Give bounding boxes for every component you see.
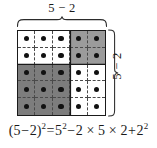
dot (94, 53, 99, 58)
dot (58, 104, 63, 109)
dot (24, 53, 29, 58)
dot (76, 36, 81, 41)
dot (76, 87, 81, 92)
formula-equals: = (46, 123, 55, 138)
formula-lhs-minus: − (21, 123, 30, 138)
dot (58, 36, 63, 41)
dot (94, 36, 99, 41)
dot (41, 53, 46, 58)
grid-cell (88, 98, 105, 115)
formula-plus: + (128, 123, 137, 138)
formula-lhs-two: 2) (30, 123, 42, 138)
dot (76, 104, 81, 109)
formula-minus: − (67, 123, 76, 138)
grid-cell (53, 98, 70, 115)
dot (41, 36, 46, 41)
dot (41, 104, 46, 109)
grid-cell (35, 65, 52, 82)
dot (94, 70, 99, 75)
grid-cell (18, 31, 35, 48)
formula-term2: 2 × 5 × 2 (76, 123, 128, 138)
grid-cell (88, 31, 105, 48)
area-model-figure: 5 − 2 (0, 0, 157, 148)
dot (94, 87, 99, 92)
dot (24, 70, 29, 75)
right-dimension-label: 5 − 2 (108, 29, 126, 117)
grid-cell (88, 65, 105, 82)
grid-cell (18, 81, 35, 98)
grid-cell (18, 98, 35, 115)
grid-cell (53, 65, 70, 82)
dot (24, 87, 29, 92)
horizontal-curly-brace-icon (16, 16, 108, 27)
dot (58, 70, 63, 75)
formula-caption: (5−2)2=52−2 × 5 × 2+22 (0, 121, 157, 141)
grid-cell (18, 65, 35, 82)
grid-cell (70, 98, 87, 115)
grid-cell (70, 81, 87, 98)
dot-grid (17, 30, 106, 116)
dot (24, 104, 29, 109)
dot (41, 87, 46, 92)
grid-cell (70, 48, 87, 65)
grid-cell (88, 81, 105, 98)
dot (94, 104, 99, 109)
grid-cell (53, 48, 70, 65)
grid-cell (53, 31, 70, 48)
grid-cell (18, 48, 35, 65)
dot (76, 70, 81, 75)
dot (41, 70, 46, 75)
grid-cell (53, 81, 70, 98)
grid-cell (35, 81, 52, 98)
grid-cell (35, 31, 52, 48)
top-dimension-label: 5 − 2 (17, 1, 107, 15)
dot (58, 87, 63, 92)
dot (24, 36, 29, 41)
grid-cell (70, 65, 87, 82)
grid-cell (35, 98, 52, 115)
formula-lhs-open: (5 (9, 123, 21, 138)
formula-term3-base: 2 (137, 123, 144, 138)
formula-term3-exponent: 2 (144, 121, 149, 131)
grid-cell (70, 31, 87, 48)
dot (58, 53, 63, 58)
dot (76, 53, 81, 58)
grid-cell (35, 48, 52, 65)
grid-cell (88, 48, 105, 65)
